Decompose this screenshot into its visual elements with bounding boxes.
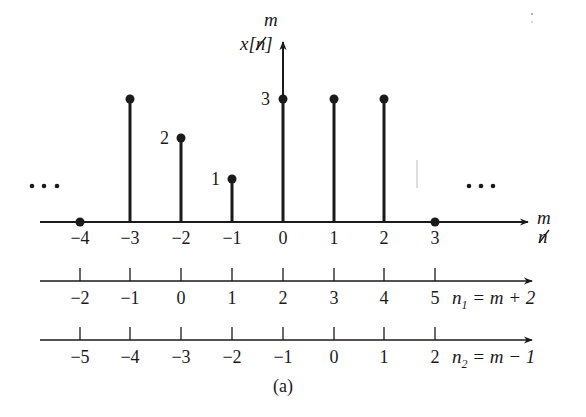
tick-m: 3 (431, 228, 440, 248)
tick-n1: 2 (279, 288, 288, 308)
value-label-1: 1 (211, 169, 220, 189)
tick-n2: 0 (330, 347, 339, 367)
ellipsis-right (467, 184, 496, 189)
stem-plot-figure: m x[n] m n 3 2 1 −4 −3 −2 −1 0 (0, 0, 586, 417)
x-axis-label-n: n (538, 226, 548, 247)
figure-caption: (a) (273, 376, 293, 397)
tick-n1: 3 (330, 288, 339, 308)
tick-m: 2 (380, 228, 389, 248)
x-axis-label-m: m (537, 207, 551, 228)
tick-n1: 0 (177, 288, 186, 308)
dot-m-neg3 (126, 95, 135, 104)
stems (130, 99, 384, 222)
tick-n2: 2 (431, 347, 440, 367)
scan-speck (531, 21, 533, 23)
dot-m-3 (431, 218, 440, 227)
dot-m-neg1 (228, 175, 237, 184)
value-label-2: 2 (160, 128, 169, 148)
dot-m-1 (330, 95, 339, 104)
tick-n2: −4 (120, 347, 139, 367)
tick-n2: −5 (70, 347, 89, 367)
ellipsis-left (30, 184, 60, 189)
tick-m: −4 (70, 228, 89, 248)
tick-m: 0 (279, 228, 288, 248)
n2-ticks (80, 327, 435, 340)
dot-m-0 (279, 95, 288, 104)
tick-n1: −2 (70, 288, 89, 308)
tick-m: −3 (120, 228, 139, 248)
value-label-3: 3 (261, 89, 270, 109)
n2-axis-label: n2 = m − 1 (452, 346, 535, 371)
tick-m: −2 (171, 228, 190, 248)
tick-n1: 4 (380, 288, 389, 308)
y-axis-label-xn: x[n] (239, 33, 273, 54)
tick-m: −1 (222, 228, 241, 248)
tick-n1: −1 (120, 288, 139, 308)
tick-n2: −1 (273, 347, 292, 367)
dot-m-neg2 (177, 134, 186, 143)
dot-m-2 (380, 95, 389, 104)
dot-m-neg4 (76, 218, 85, 227)
y-axis-label-m: m (264, 9, 278, 30)
n1-axis-label: n1 = m + 2 (452, 287, 536, 312)
tick-n2: 1 (380, 347, 389, 367)
n1-ticks (80, 268, 435, 281)
tick-n2: −2 (222, 347, 241, 367)
tick-m: 1 (330, 228, 339, 248)
scan-speck (531, 13, 533, 15)
tick-n1: 1 (228, 288, 237, 308)
tick-n1: 5 (431, 288, 440, 308)
tick-n2: −3 (171, 347, 190, 367)
